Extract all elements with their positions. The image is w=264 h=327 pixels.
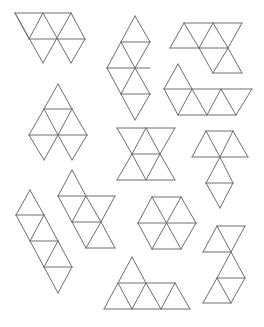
net-right-long-strip: [164, 64, 252, 115]
triangle-edge: [161, 283, 175, 309]
triangle-edge: [72, 170, 86, 196]
triangle-edge: [101, 196, 115, 222]
net-right-hook: [192, 131, 248, 208]
triangle-edge: [199, 48, 213, 73]
triangle-edge: [135, 94, 150, 120]
triangle-edge: [160, 128, 175, 154]
triangle-edge: [221, 89, 236, 115]
triangle-edge: [117, 128, 132, 154]
net-bottom-right-zigzag: [203, 226, 245, 303]
triangle-edge: [117, 154, 132, 180]
triangle-edge: [107, 42, 121, 68]
triangle-edge: [58, 135, 72, 160]
triangle-edge: [58, 170, 72, 196]
triangle-edge: [203, 278, 217, 303]
triangle-edge: [121, 94, 135, 120]
triangle-edge: [30, 215, 44, 241]
triangle-edge: [206, 131, 220, 157]
triangle-edge: [30, 241, 44, 267]
triangle-edge: [181, 197, 196, 223]
triangle-edge: [207, 89, 221, 115]
triangle-edge: [217, 252, 231, 278]
triangle-edge: [58, 84, 72, 109]
triangle-edge: [58, 267, 72, 293]
triangle-edge: [121, 68, 135, 94]
triangle-edge: [220, 157, 233, 183]
net-hexagon: [138, 197, 196, 249]
triangle-edge: [132, 128, 146, 154]
triangle-edge: [71, 39, 85, 63]
triangle-edge: [160, 154, 175, 180]
triangle-edge: [184, 23, 199, 48]
triangle-edge: [118, 283, 132, 309]
net-left-diamond: [29, 84, 87, 160]
triangle-edge: [228, 48, 242, 73]
triangle-edge: [15, 13, 29, 39]
triangle-edge: [44, 109, 58, 135]
triangle-edge: [132, 154, 146, 180]
triangle-edge: [72, 135, 87, 160]
triangle-edge: [146, 154, 160, 180]
net-top-left-trapezoid: [15, 13, 85, 63]
triangle-edge: [121, 16, 135, 42]
triangle-edge: [236, 89, 252, 115]
triangle-edge: [170, 23, 184, 48]
triangle-edge: [29, 109, 44, 135]
triangle-edge: [164, 89, 178, 115]
triangle-edge: [217, 226, 231, 252]
triangle-edge: [206, 157, 220, 183]
triangle-edge: [72, 222, 86, 248]
triangle-edge: [138, 223, 152, 249]
triangle-edge: [104, 283, 118, 309]
triangle-edge: [178, 89, 192, 115]
triangle-edge: [206, 183, 220, 208]
triangle-edge: [58, 109, 72, 135]
net-top-right-parallelogram: [170, 23, 242, 73]
triangle-edge: [44, 84, 58, 109]
triangle-edge: [118, 257, 132, 283]
triangle-edge: [178, 64, 192, 89]
triangle-edge: [228, 23, 242, 48]
triangle-edge: [44, 215, 58, 241]
triangle-edge: [181, 223, 196, 249]
triangle-edge: [44, 241, 58, 267]
net-vertical-zigzag: [107, 16, 150, 120]
triangle-edge: [213, 48, 228, 73]
triangle-edge: [107, 68, 121, 94]
triangle-nets-diagram: [0, 0, 264, 327]
triangle-edge: [199, 23, 213, 48]
triangle-edge: [121, 42, 135, 68]
triangle-edge: [231, 252, 245, 278]
triangle-edge: [231, 226, 245, 252]
net-center-hourglass: [117, 128, 175, 180]
triangle-edge: [233, 131, 248, 157]
triangle-edge: [86, 196, 101, 222]
triangle-edge: [135, 16, 150, 42]
triangle-edge: [231, 278, 245, 303]
triangle-edge: [135, 68, 150, 94]
triangle-edge: [29, 13, 43, 39]
triangle-edge: [146, 283, 161, 309]
triangle-edge: [86, 222, 101, 248]
triangle-edge: [30, 190, 44, 215]
triangle-edge: [175, 283, 190, 309]
triangle-edge: [58, 241, 72, 267]
triangle-edge: [135, 42, 150, 68]
triangle-edge: [220, 183, 233, 208]
net-bottom-pyramid-strip: [104, 257, 190, 309]
triangle-edge: [72, 109, 87, 135]
triangle-edge: [146, 128, 160, 154]
triangle-edge: [217, 278, 231, 303]
triangle-edge: [220, 131, 233, 157]
triangle-edge: [16, 190, 30, 215]
triangle-edge: [192, 131, 206, 157]
triangle-edge: [138, 197, 152, 223]
triangle-edge: [213, 23, 228, 48]
triangle-edge: [16, 215, 30, 241]
triangle-edge: [44, 135, 58, 160]
net-center-left-zigzag: [58, 170, 115, 248]
triangle-edge: [101, 222, 115, 248]
triangle-edge: [71, 13, 85, 39]
triangle-edge: [164, 64, 178, 89]
triangle-edge: [132, 257, 146, 283]
